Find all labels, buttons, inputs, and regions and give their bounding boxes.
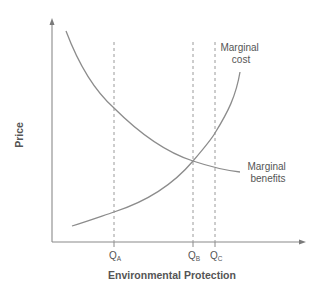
marginal-cost-curve <box>72 72 240 226</box>
q-c-label: QC <box>210 250 223 262</box>
y-axis-title: Price <box>13 122 25 148</box>
x-axis-title: Environmental Protection <box>108 269 236 281</box>
y-axis <box>50 18 55 242</box>
x-axis-arrow-icon <box>299 240 306 245</box>
q-a-label: QA <box>109 250 122 262</box>
marginal-cost-benefit-diagram: Marginal cost Marginal benefits QA QB QC… <box>0 0 324 291</box>
marginal-cost-label: Marginal cost <box>220 42 261 65</box>
y-axis-arrow-icon <box>50 18 55 25</box>
q-b-label: QB <box>188 250 200 262</box>
marginal-benefits-label: Marginal benefits <box>247 161 288 184</box>
x-axis <box>52 240 306 245</box>
marginal-benefits-curve <box>66 31 240 172</box>
